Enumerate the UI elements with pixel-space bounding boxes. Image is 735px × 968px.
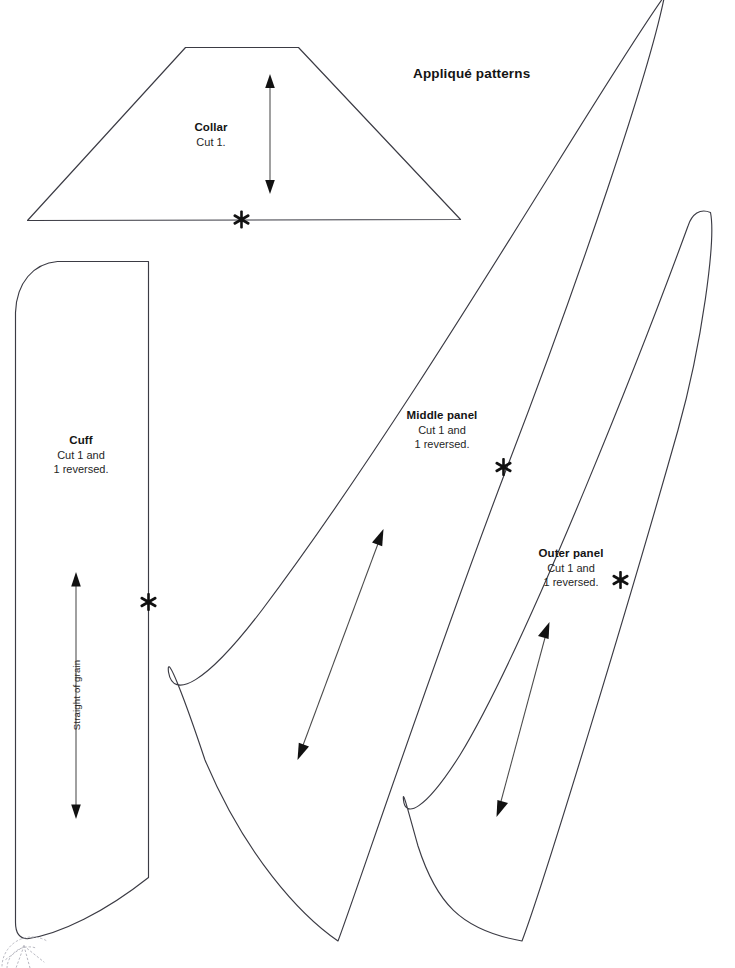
middle-panel-label: Middle panel Cut 1 and 1 reversed. — [407, 408, 478, 451]
middle-panel-label-cut-line2: 1 reversed. — [407, 437, 478, 451]
cuff-label-cut-line2: 1 reversed. — [53, 462, 108, 476]
outer-panel-label-cut-line2: 1 reversed. — [538, 575, 603, 589]
cuff-label-title: Cuff — [53, 433, 108, 448]
page-title: Appliqué patterns — [413, 66, 530, 81]
collar-label-title: Collar — [194, 120, 227, 135]
outer-panel-label-title: Outer panel — [538, 546, 603, 561]
cuff-grainline-label: Straight of grain — [71, 660, 82, 730]
collar-label: Collar Cut 1. — [194, 120, 227, 149]
cuff-outline — [16, 262, 149, 939]
cuff-notch-star-icon — [140, 593, 157, 611]
middle-panel-grainline — [298, 529, 384, 760]
outer-panel-label: Outer panel Cut 1 and 1 reversed. — [538, 546, 603, 589]
outer-panel-notch-star-icon — [612, 571, 629, 589]
middle-panel-label-cut-line1: Cut 1 and — [407, 423, 478, 437]
pattern-drawing — [0, 0, 735, 968]
cuff-piece — [2, 262, 157, 968]
collar-grainline — [265, 74, 275, 194]
middle-panel-piece — [168, 0, 664, 941]
collar-outline — [28, 48, 461, 221]
collar-label-cut: Cut 1. — [194, 135, 227, 149]
cuff-label-cut-line1: Cut 1 and — [53, 448, 108, 462]
middle-panel-outline — [168, 0, 664, 941]
middle-panel-label-title: Middle panel — [407, 408, 478, 423]
outer-panel-grainline — [497, 622, 550, 817]
outer-panel-label-cut-line1: Cut 1 and — [538, 561, 603, 575]
collar-piece — [28, 48, 461, 229]
pattern-sheet: Appliqué patterns Collar Cut 1. Cuff Cut… — [0, 0, 735, 968]
cuff-label: Cuff Cut 1 and 1 reversed. — [53, 433, 108, 476]
cuff-registration-fan-icon — [2, 937, 47, 968]
